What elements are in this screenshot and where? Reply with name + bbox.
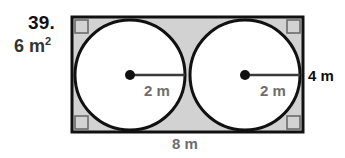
radius-label-left: 2 m — [144, 82, 170, 99]
width-label-bottom: 8 m — [172, 135, 198, 152]
geometry-problem-figure: 39. 6 m2 2 m 2 m 4 m 8 m — [0, 0, 345, 158]
center-dot-left — [125, 70, 135, 80]
center-dot-right — [240, 70, 250, 80]
height-label-right: 4 m — [308, 67, 334, 84]
radius-label-right: 2 m — [260, 82, 286, 99]
